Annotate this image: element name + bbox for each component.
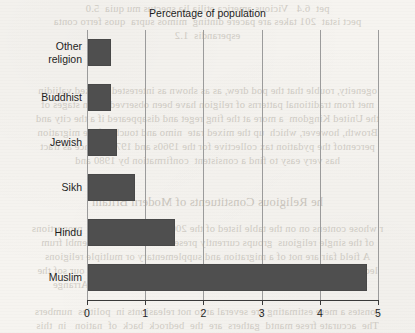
x-tick-label-0: 0: [74, 307, 100, 319]
category-label-line: Other: [0, 40, 82, 53]
bar-muslim: [88, 264, 367, 291]
category-label-line: religion: [0, 53, 82, 66]
chart-title: Percentage of population: [0, 7, 415, 19]
category-label-line: Muslim: [0, 271, 82, 284]
gridline-0: [87, 30, 88, 300]
category-label-line: Hindu: [0, 226, 82, 239]
x-tick-5: [378, 300, 379, 305]
x-tick-0: [87, 300, 88, 305]
gridline-5: [378, 30, 379, 300]
x-tick-2: [203, 300, 204, 305]
category-label-jewish: Jewish: [0, 136, 82, 149]
gridline-1: [145, 30, 146, 300]
plot-area: [87, 30, 378, 300]
category-label-buddhist: Buddhist: [0, 91, 82, 104]
x-axis-line: [87, 300, 379, 301]
x-tick-label-4: 4: [307, 307, 333, 319]
x-tick-label-2: 2: [190, 307, 216, 319]
x-tick-4: [320, 300, 321, 305]
gridline-3: [262, 30, 263, 300]
x-tick-1: [145, 300, 146, 305]
bar-chart: Percentage of population 012345Otherreli…: [0, 0, 415, 333]
bar-other-religion: [88, 39, 111, 66]
x-tick-label-5: 5: [365, 307, 391, 319]
category-label-hindu: Hindu: [0, 226, 82, 239]
category-label-muslim: Muslim: [0, 271, 82, 284]
x-tick-label-3: 3: [249, 307, 275, 319]
bar-buddhist: [88, 84, 111, 111]
bar-jewish: [88, 129, 117, 156]
bar-sikh: [88, 174, 135, 201]
gridline-4: [320, 30, 321, 300]
category-label-line: Jewish: [0, 136, 82, 149]
x-tick-label-1: 1: [132, 307, 158, 319]
category-label-sikh: Sikh: [0, 181, 82, 194]
category-label-line: Sikh: [0, 181, 82, 194]
bar-hindu: [88, 219, 175, 246]
x-tick-3: [262, 300, 263, 305]
category-label-other-religion: Otherreligion: [0, 40, 82, 65]
category-label-line: Buddhist: [0, 91, 82, 104]
gridline-2: [203, 30, 204, 300]
